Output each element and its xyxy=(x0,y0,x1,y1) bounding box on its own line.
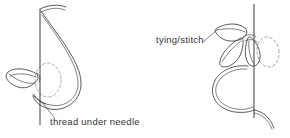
thread-loop-outer-right xyxy=(213,66,254,113)
thread-loop-inner-left xyxy=(34,15,78,106)
right-figure xyxy=(203,4,281,129)
label-thread-under-needle: thread under needle xyxy=(50,116,140,127)
petal-right-vein-right-figure xyxy=(249,41,254,64)
left-figure xyxy=(6,5,81,125)
petal-vein-left xyxy=(10,74,36,77)
label-tying-stitch: tying/stitch xyxy=(156,34,204,45)
needle-eye-thread-inner-left xyxy=(41,8,65,12)
dashed-guide-ellipse-left xyxy=(35,63,61,97)
leader-line-right xyxy=(203,30,217,42)
thread-tail-inner-right xyxy=(254,113,272,129)
thread-tail-outer-right xyxy=(254,110,274,128)
dashed-guide-ellipse-right xyxy=(255,36,281,69)
stitch-diagram: thread under needle tying/stitch xyxy=(0,0,290,138)
thread-loop-inner-right xyxy=(216,69,253,109)
stitch-illustration-svg xyxy=(0,0,290,138)
leader-line-left xyxy=(40,100,54,117)
petal-upper-vein-right xyxy=(217,29,245,32)
petal-outer-left xyxy=(6,69,38,88)
